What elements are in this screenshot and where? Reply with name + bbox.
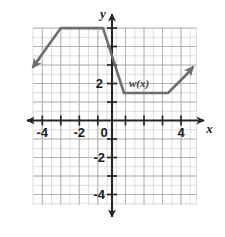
function-label-wx: w(x) [129,77,149,90]
grid-minor [33,28,197,205]
ytick-label-neg2: -2 [93,150,105,165]
graph-figure: -4 -2 0 4 2 -2 -4 y x w(x) [0,0,225,237]
xtick-label-neg4: -4 [37,125,49,140]
x-axis-label: x [205,121,213,136]
ytick-label-neg4: -4 [93,187,105,202]
ytick-label-2: 2 [96,76,103,91]
xtick-label-0: 0 [100,125,107,140]
y-axis-label: y [98,6,106,21]
xtick-label-neg2: -2 [74,125,86,140]
xtick-label-4: 4 [177,125,185,140]
coordinate-plane: -4 -2 0 4 2 -2 -4 y x w(x) [0,0,225,237]
